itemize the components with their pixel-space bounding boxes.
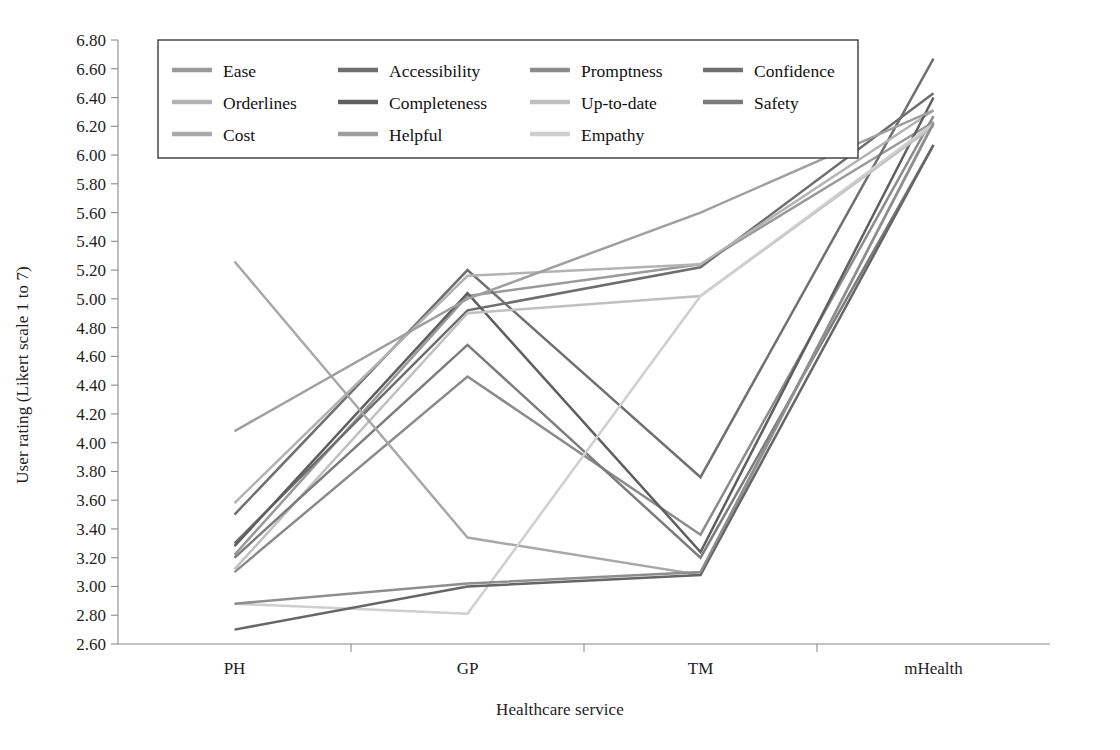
y-tick-label: 5.00	[76, 290, 106, 309]
legend-label-up-to-date: Up-to-date	[581, 93, 657, 113]
y-tick-label: 4.60	[76, 347, 106, 366]
y-tick-label: 3.00	[76, 577, 106, 596]
y-tick-label: 5.60	[76, 204, 106, 223]
y-tick-label: 3.60	[76, 491, 106, 510]
y-tick-label: 6.20	[76, 117, 106, 136]
y-tick-label: 3.20	[76, 549, 106, 568]
x-axis-title-wrap: Healthcare service	[0, 700, 1120, 720]
y-tick-label: 6.80	[76, 31, 106, 50]
y-tick-label: 6.60	[76, 60, 106, 79]
y-tick-label: 3.80	[76, 462, 106, 481]
legend-label-completeness: Completeness	[389, 93, 487, 113]
series-cost	[235, 122, 934, 575]
y-tick-label: 5.80	[76, 175, 106, 194]
legend-label-cost: Cost	[223, 125, 255, 145]
y-tick-label: 6.00	[76, 146, 106, 165]
legend-label-accessibility: Accessibility	[389, 61, 481, 81]
x-tick-label-PH: PH	[224, 659, 246, 678]
plot-area: 6.806.606.406.206.005.805.605.405.205.00…	[0, 0, 1120, 750]
series-cost-low	[235, 123, 934, 603]
y-tick-label: 6.40	[76, 89, 106, 108]
y-tick-label: 5.40	[76, 232, 106, 251]
legend-label-helpful: Helpful	[389, 125, 443, 145]
y-tick-label: 4.00	[76, 434, 106, 453]
legend-label-confidence: Confidence	[754, 61, 835, 81]
legend-label-ease: Ease	[223, 61, 256, 81]
y-tick-label: 5.20	[76, 261, 106, 280]
legend-label-promptness: Promptness	[581, 61, 663, 81]
y-tick-label: 4.20	[76, 405, 106, 424]
series-up-to-date	[235, 126, 934, 569]
y-tick-label: 4.80	[76, 319, 106, 338]
line-chart: User rating (Likert scale 1 to 7) 6.806.…	[0, 0, 1120, 750]
series-accessibility	[235, 93, 934, 543]
series-safety	[235, 145, 934, 558]
y-tick-label: 4.40	[76, 376, 106, 395]
y-tick-label: 2.80	[76, 606, 106, 625]
series-empathy	[235, 123, 934, 613]
legend-label-orderlines: Orderlines	[223, 93, 297, 113]
x-tick-label-TM: TM	[688, 659, 714, 678]
x-tick-label-mHealth: mHealth	[904, 659, 963, 678]
legend-label-safety: Safety	[754, 93, 799, 113]
x-axis-title: Healthcare service	[496, 700, 624, 720]
legend-label-empathy: Empathy	[581, 125, 644, 145]
y-tick-label: 3.40	[76, 520, 106, 539]
y-tick-label: 2.60	[76, 635, 106, 654]
x-tick-label-GP: GP	[457, 659, 479, 678]
